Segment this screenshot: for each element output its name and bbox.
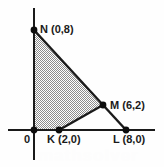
point-label-K: K (2,0) bbox=[47, 134, 81, 145]
point-M-dot bbox=[100, 102, 107, 109]
point-origin-dot bbox=[31, 127, 38, 134]
geometry-figure: N (0,8) M (6,2) K (2,0) L (8,0) 0 mathso… bbox=[0, 0, 164, 167]
point-label-N: N (0,8) bbox=[40, 24, 74, 35]
point-label-M: M (6,2) bbox=[110, 100, 145, 111]
point-label-L: L (8,0) bbox=[113, 134, 145, 145]
watermark-text: mathsolver bbox=[38, 146, 139, 166]
shaded-quadrilateral bbox=[34, 30, 103, 130]
point-N-dot bbox=[31, 27, 38, 34]
origin-label: 0 bbox=[24, 134, 30, 145]
